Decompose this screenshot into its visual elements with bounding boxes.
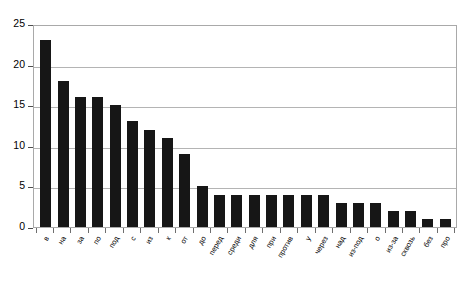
bar-slot bbox=[315, 26, 332, 227]
x-axis-tick-label-text: из-под bbox=[347, 235, 365, 258]
x-axis-label-slot: к bbox=[158, 234, 175, 281]
x-axis-label-slot: перед bbox=[211, 234, 228, 281]
x-axis-label-slot: о bbox=[368, 234, 385, 281]
bar-slot bbox=[228, 26, 245, 227]
bar[interactable] bbox=[283, 195, 294, 227]
bar-slot bbox=[419, 26, 436, 227]
bar-slot bbox=[402, 26, 419, 227]
plot-area bbox=[33, 25, 457, 228]
x-axis-label-slot: при bbox=[263, 234, 280, 281]
x-axis-tick-label-text: к bbox=[164, 235, 172, 242]
bar-slot bbox=[89, 26, 106, 227]
bar[interactable] bbox=[75, 97, 86, 227]
bar-slot bbox=[298, 26, 315, 227]
y-axis-tick-label: 15 bbox=[13, 99, 25, 110]
bar[interactable] bbox=[144, 130, 155, 227]
x-axis-label-slot: с bbox=[123, 234, 140, 281]
y-axis: 0510152025 bbox=[0, 25, 33, 228]
bar[interactable] bbox=[388, 211, 399, 227]
bar[interactable] bbox=[318, 195, 329, 227]
bars-container bbox=[34, 26, 456, 227]
bar-slot bbox=[176, 26, 193, 227]
x-axis-label-slot: из bbox=[141, 234, 158, 281]
bar[interactable] bbox=[179, 154, 190, 227]
bar-slot bbox=[246, 26, 263, 227]
x-axis-label-slot: про bbox=[437, 234, 454, 281]
x-axis-label-slot: через bbox=[315, 234, 332, 281]
x-axis-label-slot: в bbox=[36, 234, 53, 281]
bar[interactable] bbox=[162, 138, 173, 227]
y-axis-tick-label: 20 bbox=[13, 59, 25, 70]
x-axis-tick-label-text: с bbox=[129, 235, 137, 242]
x-axis-tick-label-text: в bbox=[42, 235, 50, 242]
x-axis-label-slot: у bbox=[298, 234, 315, 281]
y-axis-tick-label: 0 bbox=[19, 221, 25, 232]
bar-slot bbox=[141, 26, 158, 227]
bar[interactable] bbox=[110, 105, 121, 227]
x-axis-tick-label-text: над bbox=[334, 235, 347, 250]
x-axis-tick-label-text: на bbox=[57, 235, 68, 246]
y-axis-tick-label: 25 bbox=[13, 18, 25, 29]
x-axis-label-slot: из-за bbox=[385, 234, 402, 281]
x-axis-tick-label-text: про bbox=[439, 235, 452, 249]
x-axis-tick-label: к bbox=[166, 232, 174, 239]
y-axis-tick-label: 5 bbox=[19, 180, 25, 191]
bar-slot bbox=[37, 26, 54, 227]
x-axis-label-slot: без bbox=[420, 234, 437, 281]
x-axis-label-slot: над bbox=[333, 234, 350, 281]
bar-slot bbox=[211, 26, 228, 227]
x-axis-label-slot: под bbox=[106, 234, 123, 281]
x-axis-tick-label-text: до bbox=[197, 235, 208, 246]
x-axis-tick-label-text: сквозь bbox=[399, 235, 416, 258]
bar-slot bbox=[193, 26, 210, 227]
bar-slot bbox=[332, 26, 349, 227]
x-axis-label-slot: за bbox=[71, 234, 88, 281]
x-axis-label-slot: по bbox=[88, 234, 105, 281]
x-axis-label-slot: сквозь bbox=[403, 234, 420, 281]
bar[interactable] bbox=[92, 97, 103, 227]
bar-slot bbox=[385, 26, 402, 227]
bar-slot bbox=[367, 26, 384, 227]
x-axis-label-slot: на bbox=[53, 234, 70, 281]
bar[interactable] bbox=[353, 203, 364, 227]
x-axis-tick-label-text: перед bbox=[208, 235, 225, 256]
y-axis-tick-label: 10 bbox=[13, 140, 25, 151]
x-axis-tick-label-text: о bbox=[373, 235, 381, 242]
bar-slot bbox=[437, 26, 454, 227]
x-axis-label-slot: из-под bbox=[350, 234, 367, 281]
x-axis-label-slot: против bbox=[280, 234, 297, 281]
bar-slot bbox=[350, 26, 367, 227]
x-axis-tick-label-text: среди bbox=[226, 235, 243, 256]
x-axis-tick-label-text: через bbox=[313, 235, 329, 256]
bar[interactable] bbox=[58, 81, 69, 227]
bar[interactable] bbox=[197, 186, 208, 227]
bar[interactable] bbox=[127, 121, 138, 227]
x-axis-label-slot: до bbox=[193, 234, 210, 281]
x-axis-label-slot: среди bbox=[228, 234, 245, 281]
x-axis-tick-label-text: от bbox=[180, 235, 190, 245]
bar-slot bbox=[54, 26, 71, 227]
x-axis-tick-label-text: за bbox=[75, 235, 85, 245]
bar-chart: 0510152025 вназапоподсизкотдопередсредид… bbox=[0, 0, 467, 281]
bar[interactable] bbox=[266, 195, 277, 227]
bar[interactable] bbox=[214, 195, 225, 227]
x-axis-tick-label-text: из bbox=[145, 235, 155, 245]
x-axis-tick-label-text: для bbox=[247, 235, 260, 250]
x-axis-tick-label-text: под bbox=[107, 235, 120, 249]
bar-slot bbox=[263, 26, 280, 227]
bar-slot bbox=[159, 26, 176, 227]
x-axis-label-slot: для bbox=[245, 234, 262, 281]
x-axis-tick-label-text: из-за bbox=[384, 235, 399, 254]
x-axis-labels: вназапоподсизкотдопередсредидляприпротив… bbox=[33, 234, 457, 281]
bar-slot bbox=[124, 26, 141, 227]
x-axis-label-slot: от bbox=[176, 234, 193, 281]
x-axis-tick-label-text: без bbox=[422, 235, 434, 249]
x-axis-tick-label-text: при bbox=[264, 235, 277, 249]
bar[interactable] bbox=[40, 40, 51, 227]
bar-slot bbox=[107, 26, 124, 227]
x-axis-tick-label-text: у bbox=[304, 235, 312, 242]
x-axis-tick-label-text: по bbox=[92, 235, 102, 246]
bar-slot bbox=[280, 26, 297, 227]
bar-slot bbox=[72, 26, 89, 227]
